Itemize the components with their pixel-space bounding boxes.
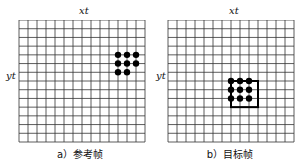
reference-grid xyxy=(0,20,150,145)
pixel-dot xyxy=(115,60,121,66)
pixel-dot xyxy=(115,69,121,75)
pixel-dot xyxy=(246,78,252,84)
pixel-dot xyxy=(228,78,234,84)
target-grid xyxy=(155,20,305,145)
match-block-box xyxy=(231,81,258,107)
x-axis-label: xt xyxy=(79,5,89,16)
pixel-dot xyxy=(228,95,234,101)
x-axis-label: xt xyxy=(229,5,239,16)
pixel-dot xyxy=(124,69,130,75)
pixel-dot xyxy=(228,87,234,93)
pixel-dot xyxy=(124,60,130,66)
pixel-dot xyxy=(237,87,243,93)
reference-caption: a）参考帧 xyxy=(5,146,155,161)
target-caption: b）目标帧 xyxy=(155,146,305,161)
pixel-dot xyxy=(133,52,139,58)
pixel-dot xyxy=(237,95,243,101)
pixel-dot xyxy=(246,87,252,93)
pixel-dot xyxy=(237,78,243,84)
reference-frame-panel: xt yt a）参考帧 xyxy=(0,0,150,162)
target-frame-panel: xt yt b）目标帧 xyxy=(155,0,305,162)
pixel-dot xyxy=(124,52,130,58)
pixel-dot xyxy=(133,60,139,66)
pixel-dot xyxy=(115,52,121,58)
pixel-dot xyxy=(246,95,252,101)
